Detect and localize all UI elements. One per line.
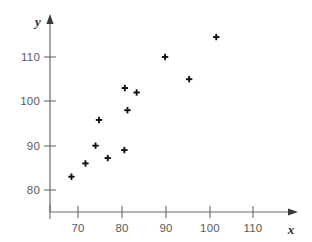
data-point-marker	[186, 76, 192, 82]
data-point-marker	[121, 147, 127, 153]
x-axis-label: x	[287, 222, 295, 237]
data-point-marker	[92, 142, 98, 148]
data-point-marker	[96, 117, 102, 123]
data-point-marker	[162, 54, 168, 60]
y-tick-label-80: 80	[27, 184, 40, 196]
y-tick-label-100: 100	[20, 95, 40, 107]
data-point-marker	[122, 85, 128, 91]
data-point-marker	[68, 174, 74, 180]
data-point-marker	[213, 34, 219, 40]
x-tick-label-100: 100	[200, 222, 220, 234]
y-tick-label-110: 110	[21, 51, 40, 63]
data-point-marker	[82, 160, 88, 166]
y-axis-label: y	[33, 14, 41, 29]
y-tick-label-90: 90	[27, 140, 40, 152]
x-tick-label-70: 70	[71, 222, 84, 234]
data-point-marker	[105, 155, 111, 161]
x-tick-label-90: 90	[159, 222, 172, 234]
data-point-group	[68, 34, 219, 180]
x-tick-label-80: 80	[115, 222, 128, 234]
x-tick-label-110: 110	[244, 222, 263, 234]
data-point-marker	[124, 107, 130, 113]
data-point-marker	[133, 89, 139, 95]
x-axis-arrow-icon	[288, 208, 298, 215]
y-axis-arrow-icon	[46, 14, 53, 24]
scatter-plot-figure: 110 100 90 80 70 80 90 100 110 y x	[0, 0, 312, 242]
scatter-plot-canvas: 110 100 90 80 70 80 90 100 110 y x	[0, 0, 312, 242]
